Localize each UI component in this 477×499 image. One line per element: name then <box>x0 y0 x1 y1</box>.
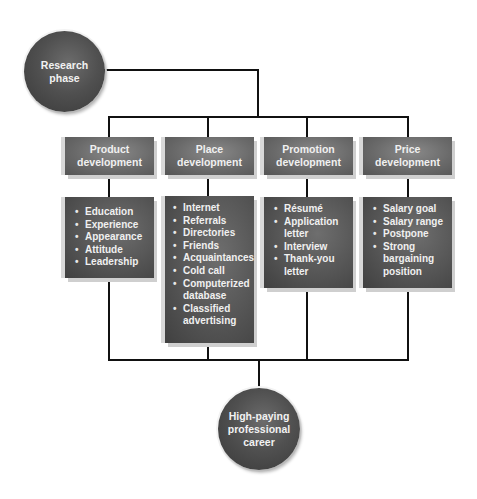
end-node-label-line-1: High-paying <box>228 410 290 423</box>
list-item: Application letter <box>274 216 347 241</box>
start-node-label-line-1: Research <box>41 59 88 72</box>
content-promotion: Résumé Application letter Interview Than… <box>264 197 353 288</box>
header-label: development <box>177 156 242 169</box>
header-label: development <box>375 156 440 169</box>
connector-start-horizontal <box>104 69 259 71</box>
list-item: Referrals <box>173 215 248 228</box>
connector-start-vertical <box>257 69 259 118</box>
header-place-development: Placedevelopment <box>165 137 254 175</box>
list-item: Résumé <box>274 203 347 216</box>
end-node-high-paying-career: High-paying professional career <box>218 388 300 470</box>
header-label: Product <box>77 143 142 156</box>
list-item: Thank-you letter <box>274 253 347 278</box>
list-item: Classified advertising <box>173 303 248 328</box>
header-promotion-development: Promotiondevelopment <box>264 137 353 175</box>
header-label: development <box>276 156 341 169</box>
list-item: Cold call <box>173 265 248 278</box>
start-node-label-line-2: phase <box>41 72 88 85</box>
list-item: Strong bargaining position <box>373 241 446 279</box>
header-label: development <box>77 156 142 169</box>
header-product-development: Productdevelopment <box>65 137 154 175</box>
connector-promotion-bottom <box>306 290 308 361</box>
list-item: Experience <box>75 219 148 232</box>
content-place: Internet Referrals Directories Friends A… <box>165 196 254 343</box>
list-item: Acquaintances <box>173 252 248 265</box>
end-node-label-line-3: career <box>228 436 290 449</box>
list-item: Education <box>75 206 148 219</box>
list-item: Computerized database <box>173 278 248 303</box>
connector-end-vertical <box>258 359 260 389</box>
header-price-development: Pricedevelopment <box>363 137 452 175</box>
list-item: Postpone <box>373 228 446 241</box>
list-item: Salary goal <box>373 203 446 216</box>
list-item: Interview <box>274 241 347 254</box>
connector-top-branch <box>108 116 409 118</box>
list-item: Appearance <box>75 231 148 244</box>
start-node-research-phase: Research phase <box>24 31 105 112</box>
list-item: Salary range <box>373 216 446 229</box>
list-item: Internet <box>173 202 248 215</box>
list-item: Leadership <box>75 256 148 269</box>
header-label: Place <box>177 143 242 156</box>
end-node-label-line-2: professional <box>228 423 290 436</box>
list-item: Attitude <box>75 244 148 257</box>
list-item: Friends <box>173 240 248 253</box>
list-item: Directories <box>173 227 248 240</box>
header-label: Price <box>375 143 440 156</box>
connector-product-bottom <box>108 280 110 361</box>
content-product: Education Experience Appearance Attitude… <box>65 197 154 278</box>
connector-price-bottom <box>407 290 409 361</box>
content-price: Salary goal Salary range Postpone Strong… <box>363 197 452 288</box>
header-label: Promotion <box>276 143 341 156</box>
